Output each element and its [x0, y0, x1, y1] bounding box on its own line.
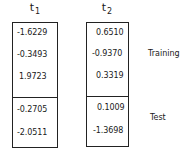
t1-test-value: -0.2705 — [17, 105, 47, 115]
training-label: Training — [148, 49, 180, 59]
column-header-subscript: 1 — [35, 7, 40, 16]
t2-training-value: 0.6510 — [96, 28, 123, 38]
column-header-t1: t1 — [20, 2, 50, 15]
t2-training-value: -0.9370 — [92, 49, 122, 59]
t1-test-value: -2.0511 — [17, 128, 47, 138]
training-test-divider — [13, 97, 57, 98]
column-header-letter: t — [102, 1, 106, 14]
t2-test-value: -1.3698 — [93, 126, 123, 136]
t1-training-value: -1.6229 — [17, 28, 47, 38]
column-header-subscript: 2 — [107, 7, 112, 16]
column-header-letter: t — [30, 1, 34, 14]
test-label: Test — [150, 113, 166, 123]
t2-test-value: 0.1009 — [97, 103, 124, 113]
t1-training-value: -0.3493 — [17, 50, 47, 60]
column-header-t2: t2 — [92, 2, 122, 15]
t1-training-value: 1.9723 — [19, 72, 46, 82]
t2-training-value: 0.3319 — [96, 71, 123, 81]
training-test-divider — [87, 96, 128, 97]
